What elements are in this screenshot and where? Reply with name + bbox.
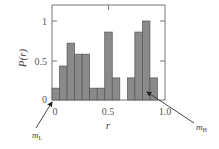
arrow-m-low xyxy=(36,102,52,128)
x-tick-label-0: 0 xyxy=(53,106,58,117)
annotation-m-high: mH xyxy=(196,122,208,133)
x-tick-label-0.5: 0.5 xyxy=(102,106,115,117)
histogram-bar xyxy=(135,32,143,100)
histogram-chart: 1 0.5 0 0 0.5 1.0 r P(r) mL mH xyxy=(0,0,219,149)
histogram-bar xyxy=(75,54,83,100)
y-tick-label-0: 0 xyxy=(42,94,47,105)
bars-group xyxy=(52,21,157,100)
arrow-m-high xyxy=(147,92,194,123)
y-tick-label-0.5: 0.5 xyxy=(35,56,48,67)
histogram-bar xyxy=(127,78,135,100)
y-axis-label: P(r) xyxy=(16,49,29,69)
x-axis-label: r xyxy=(106,119,111,131)
histogram-bar xyxy=(90,88,98,100)
x-tick-label-1.0: 1.0 xyxy=(159,106,172,117)
histogram-bar xyxy=(105,32,113,100)
histogram-bar xyxy=(67,43,75,100)
histogram-bar xyxy=(97,88,105,100)
histogram-bar xyxy=(112,78,120,100)
histogram-bar xyxy=(82,54,90,100)
histogram-bar xyxy=(142,21,150,100)
histogram-bar xyxy=(52,88,60,100)
y-tick-label-1: 1 xyxy=(42,16,47,27)
annotation-m-low: mL xyxy=(32,130,43,141)
histogram-bar xyxy=(60,66,68,100)
